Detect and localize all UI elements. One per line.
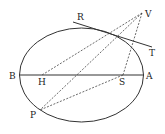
label-h: H <box>38 77 46 87</box>
label-s: S <box>119 77 125 87</box>
label-p: P <box>30 110 36 120</box>
label-v: V <box>144 9 152 19</box>
ellipse-diagram: R V T B H S A P <box>0 0 165 134</box>
label-b: B <box>9 71 16 81</box>
tangent-line <box>73 22 152 47</box>
label-t: T <box>149 48 155 58</box>
label-a: A <box>145 71 153 81</box>
label-r: R <box>77 12 84 22</box>
